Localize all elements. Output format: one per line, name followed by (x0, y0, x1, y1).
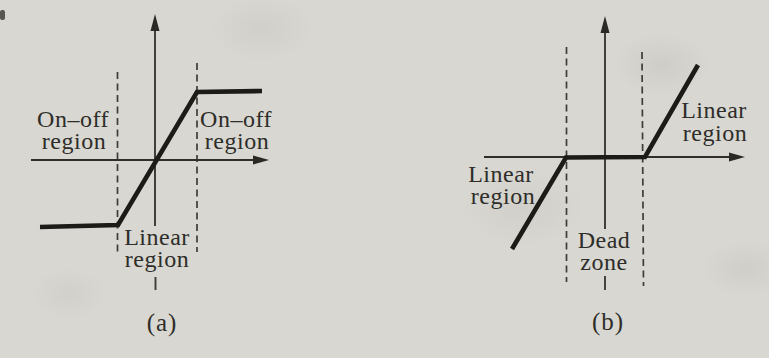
a-x-axis-arrowhead-icon (253, 156, 269, 165)
diagram-b-dead-zone: Linear region Linear region Dead zone (b… (468, 16, 747, 336)
a-y-axis-arrowhead-icon (151, 14, 160, 31)
b-y-axis-arrowhead-icon (601, 16, 610, 33)
a-left-region-label-line2: region (42, 128, 106, 154)
a-linear-region-label-line2: region (125, 246, 189, 272)
a-right-region-label-line2: region (205, 128, 269, 154)
diagram-a-saturation: On–off region On–off region Linear regio… (31, 14, 272, 337)
b-right-linear-region-label-line2: region (683, 120, 747, 146)
b-right-dashed-guide (642, 52, 644, 286)
b-dead-zone-label-line2: zone (580, 249, 627, 275)
b-x-axis-arrowhead-icon (729, 153, 745, 162)
scanned-textbook-figure: On–off region On–off region Linear regio… (0, 0, 769, 358)
b-left-linear-region-label-line2: region (471, 183, 535, 209)
a-caption: (a) (147, 309, 178, 337)
nonlinearity-figure: On–off region On–off region Linear regio… (0, 0, 769, 358)
b-caption: (b) (592, 308, 624, 336)
